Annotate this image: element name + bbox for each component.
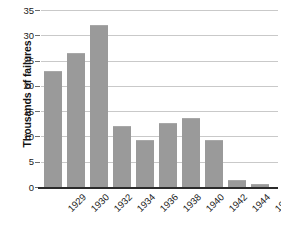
y-tick-mark	[35, 136, 40, 137]
bar-chart: Thousands of failures 35 30 25 20 15 10 …	[0, 0, 281, 229]
x-axis-line	[38, 187, 278, 189]
x-tick-label: 1929	[66, 192, 88, 214]
x-tick-label: 1930	[89, 192, 111, 214]
y-tick-mark	[35, 162, 40, 163]
x-tick-label: 1944	[250, 192, 272, 214]
bar-1942	[205, 140, 223, 187]
x-tick-label: 1940	[204, 192, 226, 214]
y-tick-mark	[35, 86, 40, 87]
y-tick-mark	[35, 35, 40, 36]
y-tick-label: 20	[12, 81, 34, 91]
bar-1932	[90, 25, 108, 187]
y-tick-mark	[35, 111, 40, 112]
bar-1929	[44, 71, 62, 187]
bar-1938	[159, 123, 177, 187]
x-tick-label: 1932	[112, 192, 134, 214]
y-tick-label: 5	[12, 157, 34, 167]
x-tick-label: 1942	[227, 192, 249, 214]
x-tick-label: 1934	[135, 192, 157, 214]
y-tick-label: 25	[12, 56, 34, 66]
y-tick-mark	[35, 61, 40, 62]
x-tick-label: 1945	[273, 192, 281, 214]
y-tick-label: 0	[12, 183, 34, 193]
y-tick-label: 10	[12, 132, 34, 142]
bar-1940	[182, 118, 200, 187]
y-tick-label: 35	[12, 6, 34, 16]
x-tick-label: 1936	[158, 192, 180, 214]
y-tick-label: 15	[12, 107, 34, 117]
x-axis-tick-labels: 1929 1930 1932 1934 1936 1938 1940 1942 …	[0, 192, 281, 229]
bar-series	[41, 10, 278, 187]
x-tick-label: 1938	[181, 192, 203, 214]
y-tick-mark	[35, 10, 40, 11]
bar-1934	[113, 126, 131, 187]
bar-1944	[228, 180, 246, 187]
bar-1930	[67, 53, 85, 187]
y-tick-label: 30	[12, 31, 34, 41]
bar-1936	[136, 140, 154, 187]
